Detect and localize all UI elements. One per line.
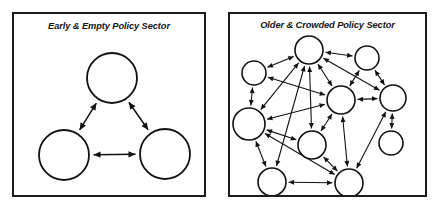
actor-node-circle	[87, 53, 137, 103]
edge-arrow-bidirectional	[289, 180, 333, 185]
actor-node-circle	[242, 61, 266, 85]
arrowhead-icon	[319, 91, 325, 96]
arrowhead-icon	[389, 123, 394, 129]
arrowhead-icon	[321, 125, 326, 131]
edge-arrow-bidirectional	[80, 103, 97, 130]
network-graph-older-crowded	[230, 14, 425, 195]
edge-arrow-bidirectional	[358, 96, 378, 101]
arrowhead-icon	[267, 129, 273, 134]
arrowhead-icon	[318, 64, 323, 70]
actor-node-circle	[39, 130, 89, 180]
panel-older-crowded-policy-sector: Older & Crowded Policy Sector	[228, 12, 427, 197]
actor-node-circle	[335, 169, 363, 195]
actor-node-circle	[379, 131, 403, 155]
arrowhead-icon	[268, 77, 274, 82]
arrowhead-icon	[327, 180, 332, 185]
arrowhead-icon	[325, 51, 331, 56]
edge-arrow-bidirectional	[307, 67, 314, 129]
edge-arrow-bidirectional	[341, 117, 350, 167]
actor-node-circle	[295, 36, 323, 64]
arrowhead-icon	[372, 96, 377, 101]
arrowhead-icon	[347, 53, 353, 58]
arrowhead-icon	[141, 122, 148, 130]
arrowhead-icon	[375, 70, 380, 76]
edge-arrow-bidirectional	[267, 103, 325, 120]
edge-arrow-bidirectional	[267, 129, 297, 140]
arrowhead-icon	[390, 114, 395, 120]
actor-node-circle	[233, 108, 265, 140]
actor-node-circle	[380, 85, 406, 111]
edge-arrow-bidirectional	[256, 141, 267, 166]
edge-arrow-bidirectional	[93, 151, 135, 158]
arrowhead-icon	[327, 114, 332, 120]
actor-node-circle	[140, 129, 190, 179]
edge-arrow-bidirectional	[129, 102, 148, 130]
edge-arrow-bidirectional	[318, 64, 332, 86]
arrowhead-icon	[128, 151, 135, 157]
actor-node-circle	[327, 86, 355, 114]
edge-arrow-bidirectional	[267, 56, 293, 67]
arrowhead-icon	[379, 79, 384, 85]
edge-arrow-bidirectional	[325, 51, 352, 58]
arrowhead-icon	[129, 102, 136, 110]
actor-node-circle	[258, 168, 286, 195]
actor-node-circle	[298, 131, 326, 159]
arrowhead-icon	[327, 80, 332, 86]
arrowhead-icon	[358, 97, 363, 102]
actor-node-circle	[355, 46, 379, 70]
edge-arrow-bidirectional	[321, 114, 332, 131]
arrowhead-icon	[290, 136, 296, 141]
arrowhead-icon	[289, 180, 294, 185]
network-graph-early-empty	[14, 14, 204, 195]
panel-early-empty-policy-sector: Early & Empty Policy Sector	[12, 12, 206, 197]
arrowhead-icon	[307, 67, 312, 72]
edge-arrow-bidirectional	[375, 70, 385, 85]
edge-arrow-bidirectional	[389, 114, 394, 129]
edge-arrow-bidirectional	[249, 88, 255, 106]
arrowhead-icon	[309, 123, 314, 128]
diagram-canvas: Early & Empty Policy Sector Older & Crow…	[0, 0, 438, 207]
arrowhead-icon	[93, 151, 100, 157]
